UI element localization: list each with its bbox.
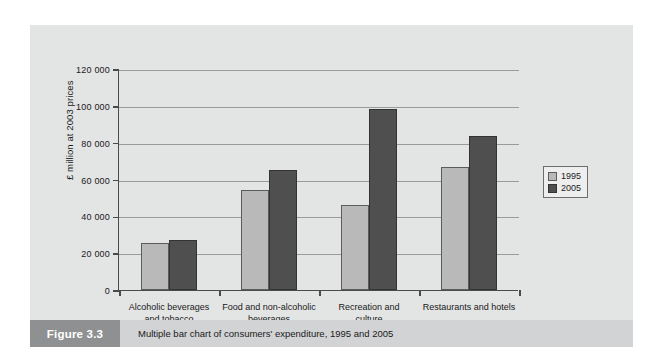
legend-label-1995: 1995: [561, 171, 581, 181]
y-axis-tick: [113, 143, 119, 145]
figure-number-label: Figure 3.3: [47, 328, 103, 340]
bar-1995-3[interactable]: [341, 205, 369, 290]
y-axis-tick: [113, 180, 119, 182]
bar-group: [141, 70, 197, 290]
y-axis-tick-label: 40 000: [81, 212, 110, 222]
figure-number-block: Figure 3.3: [30, 320, 120, 347]
figure-caption-text-block: Multiple bar chart of consumers' expendi…: [120, 320, 633, 347]
x-axis-tick: [319, 290, 321, 296]
figure-caption-bar: Figure 3.3 Multiple bar chart of consume…: [30, 320, 633, 347]
y-axis-title: £ million at 2003 prices: [64, 80, 75, 180]
y-axis-tick-label: 120 000: [76, 65, 110, 75]
bar-2005-3[interactable]: [369, 109, 397, 290]
plot-area: 020 00040 00060 00080 000100 000120 000A…: [118, 70, 518, 291]
legend-swatch-icon-1995: [548, 172, 557, 181]
figure-panel: £ million at 2003 prices 020 00040 00060…: [30, 25, 633, 347]
chart-legend: 1995 2005: [543, 166, 588, 198]
bar-2005-1[interactable]: [169, 240, 197, 290]
legend-swatch-icon-2005: [548, 184, 557, 193]
y-axis-tick: [113, 253, 119, 255]
y-axis-tick-label: 80 000: [81, 139, 110, 149]
y-axis-tick: [113, 106, 119, 108]
x-axis-tick: [419, 290, 421, 296]
figure-caption-text: Multiple bar chart of consumers' expendi…: [138, 328, 393, 339]
y-axis-tick-label: 20 000: [81, 249, 110, 259]
bar-2005-4[interactable]: [469, 136, 497, 290]
x-axis-tick: [219, 290, 221, 296]
bar-1995-4[interactable]: [441, 167, 469, 290]
bar-1995-2[interactable]: [241, 190, 269, 290]
legend-item-1995[interactable]: 1995: [548, 170, 581, 182]
y-axis-tick: [113, 217, 119, 219]
legend-label-2005: 2005: [561, 183, 581, 193]
x-axis-tick: [119, 290, 121, 296]
legend-item-2005[interactable]: 2005: [548, 182, 581, 194]
x-axis-tick: [519, 290, 521, 296]
x-axis-category-label: Restaurants and hotels: [423, 301, 516, 313]
bar-group: [241, 70, 297, 290]
bar-1995-1[interactable]: [141, 243, 169, 290]
bar-2005-2[interactable]: [269, 170, 297, 290]
y-axis-tick-label: 60 000: [81, 176, 110, 186]
bar-group: [441, 70, 497, 290]
y-axis-tick-label: 0: [105, 286, 110, 296]
bar-group: [341, 70, 397, 290]
y-axis-tick-label: 100 000: [76, 102, 110, 112]
y-axis-tick: [113, 69, 119, 71]
